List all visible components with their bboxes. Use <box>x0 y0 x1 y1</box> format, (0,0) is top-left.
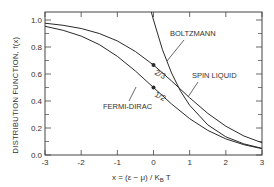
two-thirds-label: 2/3 <box>153 68 168 81</box>
spin-liquid-leader <box>188 82 198 97</box>
x-tick-label: -1 <box>114 158 122 167</box>
point-marker <box>152 63 156 67</box>
point-marker <box>152 86 156 90</box>
curve-spin-liquid <box>45 23 262 143</box>
x-tick-label: 2 <box>224 158 229 167</box>
y-tick-label: 0.2 <box>31 124 43 133</box>
x-tick-label: -3 <box>41 158 49 167</box>
plot-border <box>45 12 262 155</box>
fermi-dirac-leader <box>129 87 136 101</box>
x-tick-label: 3 <box>260 158 265 167</box>
y-tick-label: 0.0 <box>31 151 43 160</box>
x-tick-label: 1 <box>187 158 192 167</box>
boltzmann-label: BOLTZMANN <box>170 29 216 38</box>
x-axis-label-main: x = (ε − μ) / K <box>112 173 160 182</box>
distribution-function-chart: -3-2-101230.00.20.40.60.81.0 1/2 2/3 BOL… <box>0 0 274 187</box>
axis-ticks: -3-2-101230.00.20.40.60.81.0 <box>31 12 265 167</box>
y-tick-label: 1.0 <box>31 16 43 25</box>
y-tick-label: 0.4 <box>31 97 43 106</box>
spin-liquid-label: SPIN LIQUID <box>192 71 237 80</box>
half-label: 1/2 <box>153 90 168 103</box>
x-tick-label: -2 <box>78 158 86 167</box>
y-tick-label: 0.8 <box>31 43 43 52</box>
plot-frame <box>45 12 262 155</box>
boltzmann-leader <box>167 40 184 61</box>
x-tick-label: 0 <box>151 158 156 167</box>
x-axis-label: x = (ε − μ) / KB T <box>112 173 171 183</box>
y-axis-label: DISTRIBUTION FUNCTION, f(x) <box>11 36 20 153</box>
fermi-dirac-label: FERMI-DIRAC <box>103 102 153 111</box>
curves <box>45 12 262 149</box>
y-tick-label: 0.6 <box>31 70 43 79</box>
x-axis-label-tail: T <box>164 173 171 182</box>
